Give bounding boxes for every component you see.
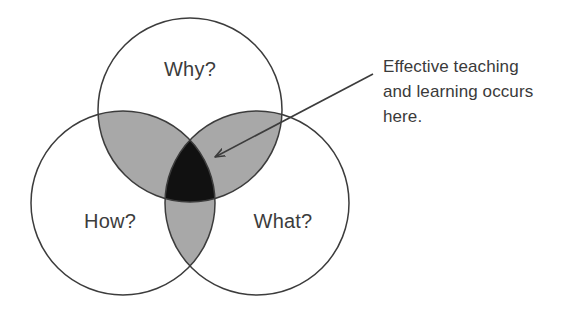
circle-label-how: How? [84,210,136,232]
venn-diagram-canvas: Why? How? What? Effective teaching and l… [0,0,575,315]
circle-label-what: What? [254,210,313,232]
venn-diagram-figure: Why? How? What? Effective teaching and l… [0,0,575,315]
callout-text-line-3: here. [383,107,422,126]
callout-text-line-1: Effective teaching [383,57,519,76]
callout-text-block: Effective teaching and learning occurs h… [383,57,533,126]
circle-label-why: Why? [164,58,216,80]
callout-text-line-2: and learning occurs [383,82,533,101]
